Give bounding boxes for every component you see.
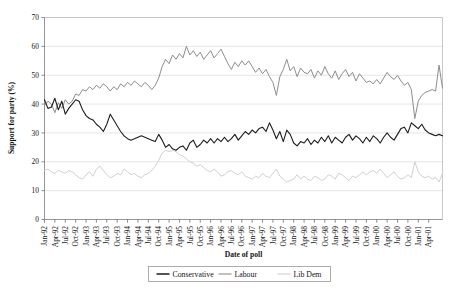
- x-tick-label-Jul-98: Jul-98: [310, 226, 319, 245]
- y-tick-label-60: 60: [32, 42, 40, 51]
- plot-frame: [45, 18, 443, 220]
- x-tick-label-Apr-95: Apr-95: [175, 226, 184, 248]
- x-tick-label-Oct-93: Oct-93: [113, 226, 122, 247]
- x-tick-label-Jan-00: Jan-00: [372, 226, 381, 246]
- legend-label-lib-dem: Lib Dem: [294, 270, 322, 279]
- x-tick-label-Jan-94: Jan-94: [123, 226, 132, 246]
- y-tick-label-20: 20: [32, 157, 40, 166]
- legend-label-conservative: Conservative: [173, 270, 215, 279]
- x-axis-ticks-group: Jan-92Apr-92Jul-92Oct-92Jan-93Apr-93Jul-…: [40, 220, 433, 248]
- x-tick-label-Jan-01: Jan-01: [414, 226, 423, 246]
- series-line-conservative: [45, 98, 443, 150]
- y-tick-label-40: 40: [32, 100, 40, 109]
- chart-canvas: 010203040506070 Jan-92Apr-92Jul-92Oct-92…: [0, 0, 457, 298]
- x-tick-label-Jul-96: Jul-96: [227, 226, 236, 245]
- gridlines-group: [45, 18, 443, 191]
- chart-legend: ConservativeLabourLib Dem: [149, 267, 331, 282]
- x-tick-label-Oct-99: Oct-99: [362, 226, 371, 247]
- x-tick-label-Jul-00: Jul-00: [393, 226, 402, 245]
- y-tick-label-30: 30: [32, 129, 40, 138]
- x-tick-label-Oct-95: Oct-95: [196, 226, 205, 247]
- series-line-lib-dem: [45, 150, 443, 182]
- x-tick-label-Jan-97: Jan-97: [248, 226, 257, 246]
- x-tick-label-Jan-92: Jan-92: [40, 226, 49, 246]
- legend-label-labour: Labour: [235, 270, 258, 279]
- x-tick-label-Jul-97: Jul-97: [269, 226, 278, 245]
- x-axis-title: Date of poll: [225, 250, 263, 259]
- x-tick-label-Apr-00: Apr-00: [383, 226, 392, 248]
- x-tick-label-Apr-97: Apr-97: [258, 226, 267, 248]
- x-tick-label-Apr-96: Apr-96: [217, 226, 226, 248]
- y-tick-label-70: 70: [32, 13, 40, 22]
- poll-support-line-chart-figure: 010203040506070 Jan-92Apr-92Jul-92Oct-92…: [0, 0, 457, 298]
- x-tick-label-Apr-94: Apr-94: [134, 226, 143, 248]
- x-tick-label-Apr-01: Apr-01: [424, 226, 433, 248]
- x-tick-label-Jul-93: Jul-93: [102, 226, 111, 245]
- x-tick-label-Jan-93: Jan-93: [82, 226, 91, 246]
- y-tick-label-0: 0: [35, 215, 39, 224]
- x-tick-label-Jul-95: Jul-95: [186, 226, 195, 245]
- x-tick-label-Jul-94: Jul-94: [144, 226, 153, 245]
- x-tick-label-Oct-00: Oct-00: [404, 226, 413, 247]
- x-tick-label-Apr-93: Apr-93: [92, 226, 101, 248]
- y-tick-label-50: 50: [32, 71, 40, 80]
- y-axis-title: Support for party (%): [7, 81, 16, 154]
- x-tick-label-Oct-98: Oct-98: [321, 226, 330, 247]
- x-tick-label-Oct-96: Oct-96: [237, 226, 246, 247]
- y-tick-label-10: 10: [32, 186, 40, 195]
- x-tick-label-Jan-95: Jan-95: [165, 226, 174, 246]
- x-tick-label-Apr-92: Apr-92: [51, 226, 60, 248]
- x-tick-label-Oct-94: Oct-94: [154, 226, 163, 247]
- x-tick-label-Jan-98: Jan-98: [289, 226, 298, 246]
- x-tick-label-Oct-97: Oct-97: [279, 226, 288, 247]
- x-tick-label-Jan-96: Jan-96: [206, 226, 215, 246]
- x-tick-label-Apr-98: Apr-98: [300, 226, 309, 248]
- x-tick-label-Apr-99: Apr-99: [341, 226, 350, 248]
- x-tick-label-Oct-92: Oct-92: [71, 226, 80, 247]
- x-tick-label-Jul-99: Jul-99: [352, 226, 361, 245]
- y-axis-ticks-group: 010203040506070: [32, 13, 45, 224]
- x-tick-label-Jan-99: Jan-99: [331, 226, 340, 246]
- x-tick-label-Jul-92: Jul-92: [61, 226, 70, 245]
- series-line-labour: [45, 46, 443, 118]
